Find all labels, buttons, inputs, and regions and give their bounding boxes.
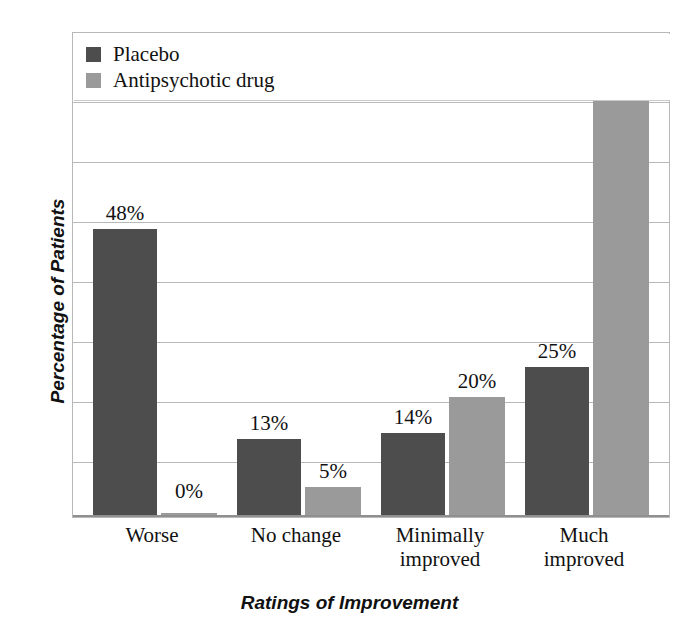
x-tick-line: Much (512, 524, 656, 548)
x-tick-much-improved: Much improved (512, 524, 656, 571)
x-tick-minimally-improved: Minimally improved (368, 524, 512, 571)
legend-label: Antipsychotic drug (113, 70, 275, 91)
bar-antipsychotic-much-improved[interactable]: 75% (593, 67, 649, 517)
bar-series-container: 48% 0% 13% 5% 14% (73, 33, 669, 517)
legend-item-placebo[interactable]: Placebo (86, 41, 670, 67)
x-tick-no-change: No change (224, 524, 368, 548)
bar-placebo-much-improved[interactable]: 25% (525, 367, 589, 517)
x-tick-line: improved (512, 548, 656, 572)
plot-area: 48% 0% 13% 5% 14% (72, 32, 670, 518)
bar-antipsychotic-minimally-improved[interactable]: 20% (449, 397, 505, 517)
legend-label: Placebo (113, 44, 179, 65)
bar-value-label: 5% (319, 459, 347, 484)
bar-placebo-minimally-improved[interactable]: 14% (381, 433, 445, 517)
bar-group-no-change: 13% 5% (225, 33, 369, 517)
x-tick-worse: Worse (80, 524, 224, 548)
x-tick-line: improved (368, 548, 512, 572)
bar-value-label: 14% (394, 405, 433, 430)
bar-antipsychotic-no-change[interactable]: 5% (305, 487, 361, 517)
x-tick-line: Minimally (368, 524, 512, 548)
bar-chart-figure: Percentage of Patients 48% 0% 13% (0, 0, 699, 638)
legend-swatch-antipsychotic-drug (86, 73, 101, 88)
legend-swatch-placebo (86, 47, 101, 62)
x-axis-baseline (73, 515, 669, 517)
x-axis-tick-labels: Worse No change Minimally improved Much … (72, 524, 670, 586)
bar-group-much-improved: 25% 75% (513, 33, 657, 517)
bar-value-label: 0% (175, 479, 203, 504)
bar-group-minimally-improved: 14% 20% (369, 33, 513, 517)
bar-group-worse: 48% 0% (81, 33, 225, 517)
x-tick-line: Worse (80, 524, 224, 548)
bar-value-label: 25% (538, 339, 577, 364)
bar-placebo-no-change[interactable]: 13% (237, 439, 301, 517)
x-tick-line: No change (224, 524, 368, 548)
y-axis-title: Percentage of Patients (47, 151, 69, 451)
bar-value-label: 48% (106, 201, 145, 226)
bar-value-label: 20% (458, 369, 497, 394)
bar-value-label: 13% (250, 411, 289, 436)
bar-placebo-worse[interactable]: 48% (93, 229, 157, 517)
chart-legend: Placebo Antipsychotic drug (74, 34, 670, 101)
legend-item-antipsychotic-drug[interactable]: Antipsychotic drug (86, 67, 670, 93)
x-axis-title: Ratings of Improvement (0, 592, 699, 614)
